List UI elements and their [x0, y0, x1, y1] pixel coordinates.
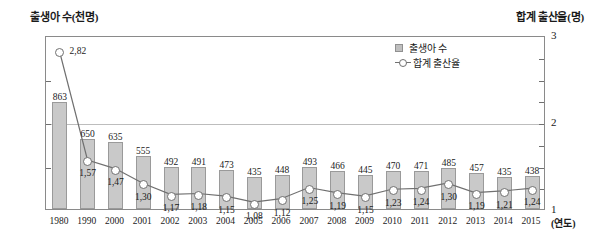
x-axis-tick-label: 2003: [188, 216, 207, 226]
rate-value-label: 1,17: [163, 203, 180, 213]
bar-value-label: 485: [442, 158, 456, 168]
bar-value-label: 466: [331, 161, 345, 171]
legend-label-fertility-rate: 합계 출산율: [413, 55, 459, 70]
rate-value-label: 1,19: [329, 201, 346, 211]
x-axis-tick-label: 2008: [327, 216, 346, 226]
x-axis-tick-label: 2007: [299, 216, 318, 226]
rate-value-label: 1,18: [190, 202, 207, 212]
rate-value-label: 1,30: [135, 192, 152, 202]
line-marker: [500, 188, 509, 197]
line-marker: [83, 157, 92, 166]
bar-value-label: 435: [497, 167, 511, 177]
bar-value-label: 448: [275, 165, 289, 175]
x-axis-tick-label: 2013: [466, 216, 485, 226]
bar-value-label: 650: [81, 129, 95, 139]
x-axis-tick-label: 2012: [438, 216, 457, 226]
right-axis-tick-label: 1: [551, 203, 557, 215]
line-marker: [167, 192, 176, 201]
left-axis-title: 출생아 수(천명): [30, 8, 98, 24]
bar-value-label: 470: [386, 161, 400, 171]
x-axis-tick-label: 2010: [383, 216, 402, 226]
x-axis-tick-label: 2011: [411, 216, 430, 226]
line-circle-swatch-icon: [395, 58, 411, 67]
x-axis-tick-label: 2006: [272, 216, 291, 226]
chart-legend: 출생아 수 합계 출산율: [395, 40, 503, 70]
bar-value-label: 445: [358, 165, 372, 175]
x-axis-tick-label: 2014: [494, 216, 513, 226]
bar-value-label: 491: [192, 157, 206, 167]
bar-value-label: 492: [164, 157, 178, 167]
right-axis-tick-label: 2: [551, 116, 557, 128]
bar-value-label: 471: [414, 161, 428, 171]
rate-value-label: 1,57: [79, 168, 96, 178]
x-axis-tick-label: 2004: [216, 216, 235, 226]
rate-value-label: 1,15: [357, 205, 374, 215]
line-marker: [278, 196, 287, 205]
rate-value-label: 1,19: [468, 201, 485, 211]
rate-value-label: 2,82: [70, 46, 87, 56]
line-marker: [250, 200, 259, 209]
bar-value-label: 635: [108, 132, 122, 142]
rate-value-label: 1,23: [385, 198, 402, 208]
bar-value-label: 438: [525, 166, 539, 176]
x-axis-tick-label: 2002: [161, 216, 180, 226]
bar-value-label: 863: [53, 92, 67, 102]
x-axis-unit-label: (연도): [551, 215, 576, 230]
legend-item-fertility-rate: 합계 출산율: [395, 55, 503, 70]
bar-value-label: 435: [247, 167, 261, 177]
rate-value-label: 1,24: [413, 197, 430, 207]
rate-value-label: 1,15: [218, 205, 235, 215]
rate-value-label: 1,25: [302, 196, 319, 206]
legend-item-births: 출생아 수: [395, 40, 503, 55]
bar-value-label: 473: [219, 160, 233, 170]
line-marker: [472, 190, 481, 199]
right-axis-tick-label: 3: [551, 29, 557, 41]
bar-value-label: 457: [469, 163, 483, 173]
birthrate-chart: 출생아 수(천명) 합계 출산율(명) 1,250750250 321 8636…: [0, 0, 590, 240]
rate-value-label: 1,21: [496, 200, 513, 210]
bar-value-label: 555: [136, 146, 150, 156]
x-axis-tick-label: 2000: [105, 216, 124, 226]
right-axis-title: 합계 출산율(명): [516, 8, 584, 24]
bar-value-label: 493: [303, 157, 317, 167]
x-axis-tick-label: 2009: [355, 216, 374, 226]
line-marker: [417, 186, 426, 195]
bar-swatch-icon: [395, 44, 403, 52]
rate-value-label: 1,24: [524, 197, 541, 207]
rate-value-label: 1,30: [440, 192, 457, 202]
line-marker: [111, 166, 120, 175]
rate-value-label: 1,47: [107, 177, 124, 187]
x-axis-tick-label: 2015: [522, 216, 541, 226]
x-axis-tick-label: 2005: [244, 216, 263, 226]
line-marker: [528, 186, 537, 195]
x-axis-tick-label: 1980: [49, 216, 68, 226]
x-axis-tick-label: 1990: [77, 216, 96, 226]
x-axis-tick-label: 2001: [133, 216, 152, 226]
fertility-rate-line: [60, 52, 530, 202]
legend-label-births: 출생아 수: [409, 40, 447, 55]
